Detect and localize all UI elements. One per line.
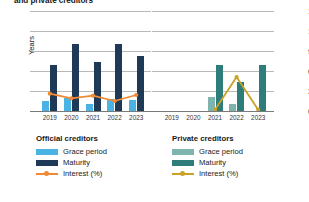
gridline [30,51,274,52]
legend-label: Interest (%) [63,169,102,178]
legend-line-icon [172,170,194,177]
bar-grace-period [64,98,71,112]
bar-maturity [216,65,223,112]
legend-private-creditors: Private creditorsGrace periodMaturityInt… [172,134,243,179]
legend-line-icon [36,170,58,177]
legend-label: Maturity [63,158,90,167]
legend-item[interactable]: Maturity [172,157,243,168]
bar-maturity [259,65,266,112]
panel-separator [151,11,152,112]
bar-grace-period [208,97,215,112]
bar-maturity [50,65,57,112]
legend-item[interactable]: Maturity [36,157,107,168]
legend-swatch-icon [172,160,194,166]
bar-maturity [115,44,122,112]
x-axis-tick: 2023 [245,114,271,121]
legend-label: Grace period [199,147,243,156]
chart-title: and private creditors [14,0,254,5]
legend-swatch-icon [172,149,194,155]
y-axis-right-tick: 3 [308,87,309,96]
bar-maturity [137,56,144,112]
legend-item[interactable]: Grace period [172,146,243,157]
legend-heading: Official creditors [36,134,107,143]
legend-swatch-icon [36,149,58,155]
plot-area: 01020304050 03691215 2019202020212022202… [30,11,274,112]
gridline [30,11,274,12]
y-axis-right-tick: 12 [308,27,309,36]
legend-official-creditors: Official creditorsGrace periodMaturityIn… [36,134,107,179]
legend-item[interactable]: Interest (%) [172,168,243,179]
y-axis-left-label: Years [27,36,36,55]
legend-item[interactable]: Interest (%) [36,168,107,179]
bar-maturity [237,82,244,112]
bar-maturity [72,44,79,112]
bar-maturity [94,62,101,112]
x-axis-line [30,111,274,112]
y-axis-right-tick: 6 [308,67,309,76]
legend-swatch-icon [36,160,58,166]
legend-item[interactable]: Grace period [36,146,107,157]
legend-heading: Private creditors [172,134,243,143]
legend-label: Maturity [199,158,226,167]
chart-figure: and private creditors 01020304050 036912… [0,0,309,202]
x-axis-tick: 2023 [123,114,149,121]
gridline [30,31,274,32]
legend-label: Interest (%) [199,169,238,178]
y-axis-right-tick: 0 [308,107,309,116]
y-axis-right-tick: 9 [308,47,309,56]
legend-label: Grace period [63,147,107,156]
interest-marker [235,75,239,79]
y-axis-right-tick: 15 [308,7,309,16]
gridline [30,71,274,72]
